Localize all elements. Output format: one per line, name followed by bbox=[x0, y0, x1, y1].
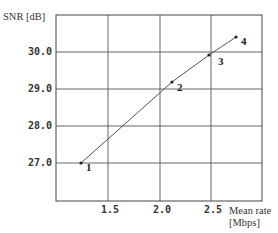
grid bbox=[56, 15, 262, 201]
xtick-label: 2.5 bbox=[204, 204, 222, 215]
ytick-label: 30.0 bbox=[28, 46, 52, 57]
data-point-2 bbox=[170, 80, 173, 83]
plot-frame bbox=[56, 15, 262, 201]
data-point-3 bbox=[207, 53, 210, 56]
data-points bbox=[79, 35, 237, 164]
y-axis-label: SNR [dB] bbox=[3, 11, 45, 22]
ytick-label: 29.0 bbox=[28, 83, 52, 94]
point-label-2: 2 bbox=[177, 81, 183, 93]
data-point-4 bbox=[234, 35, 237, 38]
xtick-label: 1.5 bbox=[101, 204, 119, 215]
point-label-1: 1 bbox=[86, 161, 92, 173]
point-label-4: 4 bbox=[241, 35, 247, 47]
ytick-label: 28.0 bbox=[28, 120, 52, 131]
x-axis-label-line2: [Mbps] bbox=[229, 217, 260, 228]
snr-vs-rate-chart: 30.0 29.0 28.0 27.0 1.5 2.0 2.5 SNR [dB]… bbox=[0, 0, 278, 233]
x-axis-label-line1: Mean rate bbox=[229, 205, 272, 216]
ytick-label: 27.0 bbox=[28, 157, 52, 168]
point-label-3: 3 bbox=[218, 55, 224, 67]
data-point-1 bbox=[79, 161, 82, 164]
xtick-label: 2.0 bbox=[153, 204, 171, 215]
data-series-line bbox=[81, 37, 236, 163]
